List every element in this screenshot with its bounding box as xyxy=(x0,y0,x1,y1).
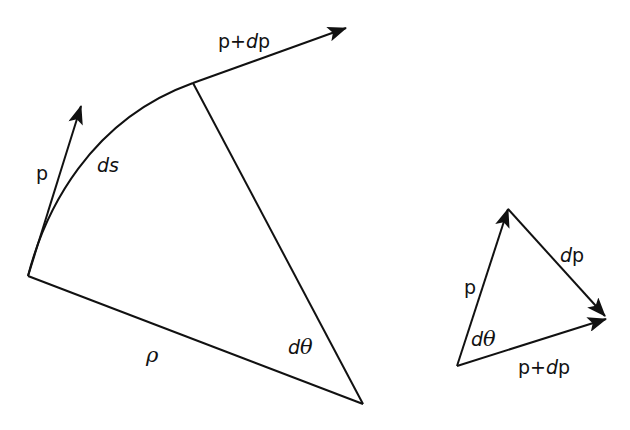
label-p: p xyxy=(36,162,48,184)
triangle-label-dtheta: dθ xyxy=(471,327,496,351)
triangle-label-dp: dp xyxy=(560,244,584,266)
label-rho: ρ xyxy=(145,343,159,367)
curve-ds xyxy=(28,83,193,276)
label-dtheta: dθ xyxy=(288,335,313,359)
radius-line-rho xyxy=(28,276,363,404)
label-ds: ds xyxy=(97,154,119,176)
triangle-label-p-plus-dp: p+dp xyxy=(518,356,570,378)
radius-line-end xyxy=(193,83,363,404)
diagram-canvas: p+dp p ds ρ dθ p dp dθ p+dp xyxy=(0,0,630,430)
tangent-p-arrow xyxy=(28,106,81,276)
triangle-label-p: p xyxy=(464,276,476,298)
main-figure: p+dp p ds ρ dθ xyxy=(28,28,363,404)
label-p-plus-dp: p+dp xyxy=(218,30,270,52)
vector-triangle: p dp dθ p+dp xyxy=(457,209,606,378)
vector-dp-arrow xyxy=(508,209,605,316)
